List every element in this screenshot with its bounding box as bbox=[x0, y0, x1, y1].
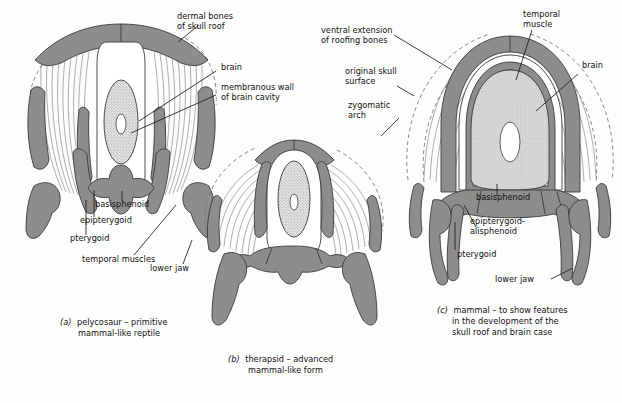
label-basisphenoid-a: basisphenoid bbox=[95, 199, 149, 209]
caption-a-line1: (a) pelycosaur – primitive bbox=[60, 317, 167, 327]
brain-b-foramen bbox=[290, 194, 298, 210]
label-membranous-line1: membranous wall bbox=[221, 82, 294, 92]
label-temporal-muscles-a: temporal muscles bbox=[82, 254, 155, 264]
label-temporal-muscle-line2: muscle bbox=[523, 19, 552, 29]
label-basisphenoid-c: basisphenoid bbox=[476, 192, 530, 202]
caption-a-marker: (a) bbox=[60, 317, 71, 327]
label-lower-jaw-c: lower jaw bbox=[495, 274, 534, 284]
label-epipterygoid-c-line2: alisphenoid bbox=[470, 226, 517, 236]
label-original-skull-line1: original skull bbox=[345, 66, 397, 76]
caption-a-line2: mammal-like reptile bbox=[78, 328, 160, 338]
label-membranous-line2: of brain cavity bbox=[221, 92, 280, 102]
label-epipterygoid-a: epipterygoid bbox=[80, 215, 132, 225]
label-pterygoid-c: pterygoid bbox=[457, 249, 496, 259]
caption-b-marker: (b) bbox=[228, 354, 240, 364]
label-ventral-extension-line2: of roofing bones bbox=[321, 35, 388, 45]
caption-b-line2: mammal-like form bbox=[248, 365, 323, 375]
caption-c-marker: (c) bbox=[437, 305, 448, 315]
caption-c-line2: in the development of the bbox=[452, 316, 559, 326]
caption-c-line1: (c) mammal – to show features bbox=[437, 305, 567, 315]
brain-c-foramen bbox=[500, 122, 520, 162]
label-original-skull-line2: surface bbox=[345, 76, 375, 86]
label-pterygoid-a: pterygoid bbox=[70, 233, 109, 243]
label-brain-a: brain bbox=[221, 62, 242, 72]
skull-cross-section-figure: dermal bones of skull roof brain membran… bbox=[0, 0, 622, 403]
label-zygomatic-line1: zygomatic bbox=[348, 100, 390, 110]
label-brain-c: brain bbox=[582, 60, 603, 70]
label-zygomatic-line2: arch bbox=[348, 110, 366, 120]
caption-c-line3: skull roof and brain case bbox=[452, 327, 552, 337]
label-dermal-bones-line1: dermal bones bbox=[177, 11, 233, 21]
label-dermal-bones-line2: of skull roof bbox=[177, 21, 226, 31]
caption-c-text1: mammal – to show features bbox=[454, 305, 568, 315]
label-temporal-muscle-line1: temporal bbox=[523, 9, 560, 19]
brain-a-foramen bbox=[116, 114, 126, 134]
label-ventral-extension-line1: ventral extension bbox=[321, 25, 392, 35]
label-epipterygoid-c-line1: epipterygoid- bbox=[470, 216, 525, 226]
label-lower-jaw-a: lower jaw bbox=[150, 263, 189, 273]
caption-b-text1: therapsid – advanced bbox=[245, 354, 333, 364]
caption-a-text1: pelycosaur – primitive bbox=[77, 317, 167, 327]
